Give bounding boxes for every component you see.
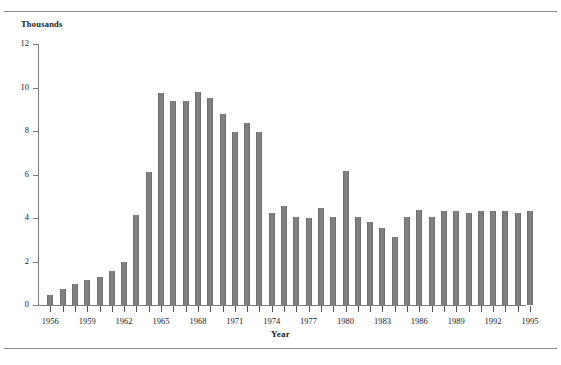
x-axis-tick bbox=[382, 306, 383, 312]
bar bbox=[527, 211, 533, 305]
x-axis-tick bbox=[50, 306, 51, 312]
y-axis-tick: 0 bbox=[33, 305, 38, 306]
x-axis-tick bbox=[198, 306, 199, 312]
y-axis-tick-label: 8 bbox=[25, 125, 29, 136]
bar bbox=[244, 123, 250, 305]
bar bbox=[146, 172, 152, 305]
y-axis-tick-label: 2 bbox=[25, 256, 29, 267]
x-axis-tick bbox=[530, 306, 531, 312]
x-axis-tick bbox=[518, 306, 519, 312]
bar bbox=[220, 114, 226, 305]
y-axis-tick: 4 bbox=[33, 218, 38, 219]
bar bbox=[133, 215, 139, 305]
bar bbox=[232, 132, 238, 305]
figure-container: Thousands 024681012 19561959196219651968… bbox=[0, 0, 561, 365]
x-axis-tick bbox=[235, 306, 236, 312]
x-axis-tick bbox=[407, 306, 408, 312]
x-axis-tick-label: 1968 bbox=[189, 316, 206, 327]
bottom-horizontal-rule bbox=[4, 348, 557, 349]
bar bbox=[318, 208, 324, 305]
bar bbox=[441, 211, 447, 305]
x-axis-tick bbox=[186, 306, 187, 312]
y-axis-tick-label: 12 bbox=[21, 38, 30, 49]
bar bbox=[72, 284, 78, 305]
bar bbox=[453, 211, 459, 305]
plot-area: 024681012 195619591962196519681971197419… bbox=[38, 44, 530, 305]
bar bbox=[343, 171, 349, 305]
bar bbox=[478, 211, 484, 305]
y-axis-tick: 10 bbox=[33, 88, 38, 89]
bar bbox=[416, 210, 422, 305]
x-axis-tick bbox=[469, 306, 470, 312]
x-axis-title: Year bbox=[0, 329, 561, 339]
x-axis-tick-label: 1980 bbox=[337, 316, 354, 327]
y-axis-tick-label: 6 bbox=[25, 169, 29, 180]
x-axis-tick bbox=[210, 306, 211, 312]
bar bbox=[195, 92, 201, 305]
bar bbox=[84, 280, 90, 305]
y-axis-tick-label: 4 bbox=[25, 212, 29, 223]
bar bbox=[97, 277, 103, 305]
x-axis-tick-label: 1965 bbox=[153, 316, 170, 327]
x-axis-tick-label: 1962 bbox=[116, 316, 133, 327]
x-axis-tick bbox=[284, 306, 285, 312]
x-axis-tick bbox=[358, 306, 359, 312]
bar bbox=[121, 262, 127, 306]
x-axis-tick bbox=[75, 306, 76, 312]
bar bbox=[515, 213, 521, 305]
x-axis-tick bbox=[481, 306, 482, 312]
bar bbox=[109, 271, 115, 305]
bar bbox=[47, 295, 53, 305]
x-axis-tick-label: 1959 bbox=[79, 316, 96, 327]
x-axis-tick bbox=[296, 306, 297, 312]
bar-series bbox=[38, 44, 530, 305]
x-axis-tick bbox=[223, 306, 224, 312]
bar bbox=[466, 213, 472, 305]
y-axis-tick: 8 bbox=[33, 131, 38, 132]
x-axis-tick bbox=[247, 306, 248, 312]
bar bbox=[490, 211, 496, 305]
x-axis-tick bbox=[419, 306, 420, 312]
bar bbox=[404, 217, 410, 305]
x-axis-tick bbox=[124, 306, 125, 312]
bar bbox=[256, 132, 262, 305]
x-axis-tick bbox=[493, 306, 494, 312]
x-axis-tick-label: 1995 bbox=[522, 316, 539, 327]
bar bbox=[330, 217, 336, 305]
bar bbox=[379, 228, 385, 305]
y-axis-tick: 2 bbox=[33, 262, 38, 263]
x-axis-tick bbox=[456, 306, 457, 312]
bar bbox=[502, 211, 508, 305]
y-axis-unit-label: Thousands bbox=[21, 19, 63, 29]
bar bbox=[183, 101, 189, 305]
x-axis-tick bbox=[63, 306, 64, 312]
x-axis-tick-label: 1971 bbox=[226, 316, 243, 327]
x-axis-tick-label: 1977 bbox=[300, 316, 317, 327]
x-axis-tick bbox=[321, 306, 322, 312]
y-axis-tick: 12 bbox=[33, 44, 38, 45]
x-axis-tick bbox=[87, 306, 88, 312]
x-axis-tick bbox=[444, 306, 445, 312]
x-axis-tick-label: 1974 bbox=[263, 316, 280, 327]
bar bbox=[170, 101, 176, 305]
top-horizontal-rule bbox=[4, 11, 557, 12]
x-axis-tick-label: 1992 bbox=[485, 316, 502, 327]
clipped-title-fragment bbox=[0, 0, 561, 4]
x-axis-tick-label: 1986 bbox=[411, 316, 428, 327]
x-axis-tick bbox=[173, 306, 174, 312]
x-axis-tick bbox=[272, 306, 273, 312]
bar bbox=[367, 222, 373, 305]
x-axis-tick bbox=[112, 306, 113, 312]
y-axis-tick-label: 0 bbox=[25, 299, 29, 310]
bar bbox=[429, 217, 435, 305]
x-axis-tick-label: 1989 bbox=[448, 316, 465, 327]
bar bbox=[281, 206, 287, 305]
x-axis-tick bbox=[161, 306, 162, 312]
x-axis-tick bbox=[395, 306, 396, 312]
x-axis-tick bbox=[333, 306, 334, 312]
x-axis-tick-label: 1956 bbox=[42, 316, 59, 327]
bar bbox=[355, 217, 361, 305]
x-axis-tick bbox=[505, 306, 506, 312]
y-axis-tick: 6 bbox=[33, 175, 38, 176]
bar bbox=[392, 237, 398, 306]
